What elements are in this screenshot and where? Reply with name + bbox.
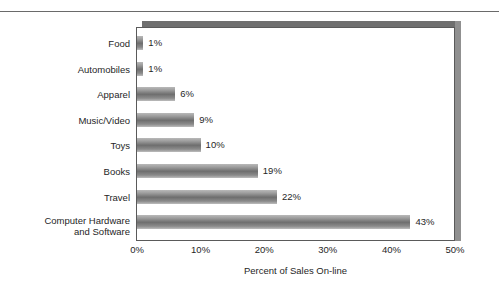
bar-row: Apparel6% [0, 87, 499, 111]
bar [137, 87, 175, 101]
bar [137, 113, 194, 127]
bar-value-label: 10% [206, 138, 225, 152]
top-divider-rule [0, 11, 499, 12]
bar-value-label: 1% [148, 36, 162, 50]
bar-row: Books19% [0, 164, 499, 188]
bar [137, 138, 201, 152]
bar-category-label: Travel [0, 192, 130, 203]
x-axis-tick-labels: 0%10%20%30%40%50% [0, 244, 499, 260]
bar-value-label: 43% [415, 215, 434, 229]
x-axis-tick-label: 40% [367, 244, 415, 256]
bar-value-label: 9% [199, 113, 213, 127]
x-axis-tick-label: 10% [177, 244, 225, 256]
bar-value-label: 1% [148, 62, 162, 76]
bar-category-label: Books [0, 166, 130, 177]
bar [137, 62, 143, 76]
bar-row: Automobiles1% [0, 62, 499, 86]
bar-row: Computer Hardware and Software43% [0, 215, 499, 239]
bar-row: Toys10% [0, 138, 499, 162]
bar-value-label: 6% [180, 87, 194, 101]
bar-value-label: 22% [282, 190, 301, 204]
bar-row: Travel22% [0, 190, 499, 214]
bar-category-label: Computer Hardware and Software [0, 215, 130, 237]
bar-category-label: Apparel [0, 89, 130, 100]
x-axis-tick-label: 0% [113, 244, 161, 256]
bar-rows-container: Food1%Automobiles1%Apparel6%Music/Video9… [0, 27, 499, 241]
bar-category-label: Automobiles [0, 64, 130, 75]
bar-row: Food1% [0, 36, 499, 60]
x-axis-tick-label: 20% [240, 244, 288, 256]
x-axis-tick-label: 50% [431, 244, 479, 256]
bar-row: Music/Video9% [0, 113, 499, 137]
bar-category-label: Food [0, 38, 130, 49]
bar [137, 36, 143, 50]
bar-category-label: Music/Video [0, 115, 130, 126]
x-axis-tick-label: 30% [304, 244, 352, 256]
bar-category-label: Toys [0, 140, 130, 151]
bar [137, 190, 277, 204]
bar [137, 215, 410, 229]
bar [137, 164, 258, 178]
x-axis-title: Percent of Sales On-line [136, 265, 455, 276]
bar-value-label: 19% [263, 164, 282, 178]
